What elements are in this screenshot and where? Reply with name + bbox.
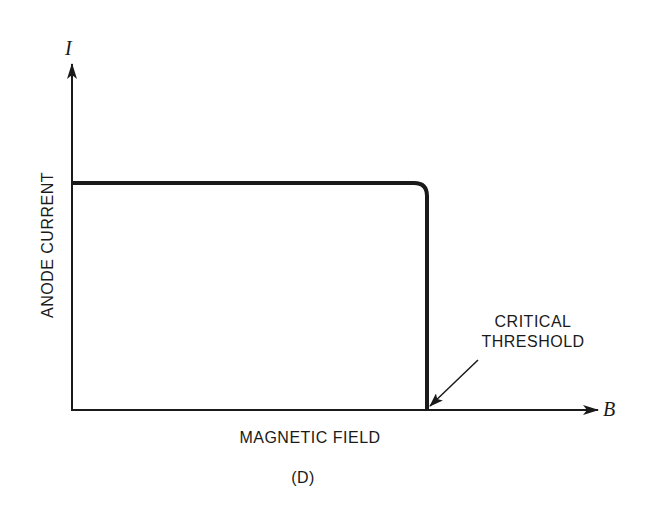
annotation-line-1: CRITICAL xyxy=(481,312,584,332)
current-curve xyxy=(72,183,427,410)
y-axis-variable: I xyxy=(65,37,72,60)
figure-tag: (D) xyxy=(291,469,315,487)
y-axis-title: ANODE CURRENT xyxy=(39,172,57,318)
x-axis-variable: B xyxy=(603,398,615,421)
diagram-figure: I B ANODE CURRENT MAGNETIC FIELD CRITICA… xyxy=(0,0,656,509)
x-axis-title: MAGNETIC FIELD xyxy=(239,429,380,447)
annotation-line-2: THRESHOLD xyxy=(481,332,584,352)
critical-threshold-annotation: CRITICAL THRESHOLD xyxy=(481,312,584,352)
threshold-arrow xyxy=(430,360,478,406)
